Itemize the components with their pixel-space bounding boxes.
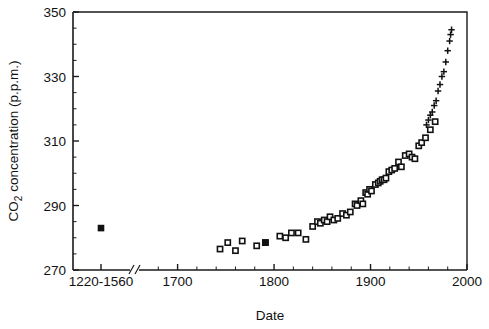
data-series [217, 119, 437, 253]
data-point-open-square [240, 238, 245, 243]
chart-canvas: 270290310330350 17001800190020001220-156… [0, 0, 489, 329]
data-point-filled-square [98, 225, 103, 230]
x-tick-label: 1800 [259, 274, 289, 289]
data-point-open-square [412, 156, 417, 161]
data-point-open-square [233, 248, 238, 253]
data-point-open-square [296, 230, 301, 235]
x-axis-title: Date [256, 308, 285, 323]
y-tick-label: 310 [43, 134, 66, 149]
y-tick-label: 330 [43, 70, 66, 85]
x-tick-label: 1900 [356, 274, 386, 289]
svg-text:CO2 concentration (p.p.m.): CO2 concentration (p.p.m.) [6, 61, 24, 222]
data-point-open-square [225, 240, 230, 245]
data-point-open-square [369, 188, 374, 193]
data-series [423, 27, 454, 129]
x-tick-label: 1700 [163, 274, 193, 289]
figure-co2-concentration-vs-date: 270290310330350 17001800190020001220-156… [0, 0, 489, 329]
data-point-open-square [423, 135, 428, 140]
x-tick-label: 2000 [452, 274, 482, 289]
y-tick-label: 270 [43, 263, 66, 278]
y-axis-title-post: concentration (p.p.m.) [6, 61, 21, 196]
y-axis-title: CO2 concentration (p.p.m.) [6, 61, 24, 222]
data-point-open-square [348, 209, 353, 214]
data-point-open-square [383, 175, 388, 180]
plot-frame [73, 12, 467, 274]
data-point-open-square [392, 166, 397, 171]
x-tick-label-range: 1220-1560 [69, 274, 134, 289]
data-point-open-square [254, 243, 259, 248]
data-series-layer [98, 27, 454, 254]
y-tick-label: 350 [43, 5, 66, 20]
data-point-open-square [428, 127, 433, 132]
data-point-open-square [303, 237, 308, 242]
data-point-open-square [433, 119, 438, 124]
y-axis-title-pre: CO [6, 201, 21, 221]
data-point-open-square [289, 230, 294, 235]
data-point-open-square [277, 234, 282, 239]
data-point-open-square [399, 164, 404, 169]
data-point-open-square [217, 246, 222, 251]
data-series [98, 225, 103, 230]
y-tick-label: 290 [43, 199, 66, 214]
data-point-filled-square [263, 240, 268, 245]
data-point-open-square [360, 201, 365, 206]
x-axis: 17001800190020001220-1560 [69, 264, 482, 289]
data-point-open-square [283, 235, 288, 240]
